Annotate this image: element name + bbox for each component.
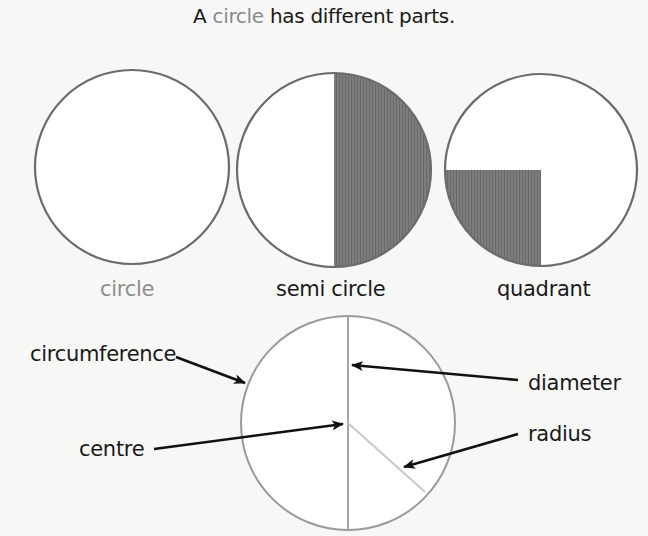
shape-quadrant	[445, 74, 637, 266]
label-circumference: circumference	[30, 342, 176, 366]
label-centre: centre	[79, 437, 144, 461]
label-semi-circle: semi circle	[276, 277, 385, 301]
quadrant-shaded-quarter	[445, 170, 541, 266]
label-diameter: diameter	[528, 371, 621, 395]
semi-circle-shaded-half	[334, 73, 431, 267]
label-quadrant: quadrant	[497, 277, 590, 301]
parts-circle	[241, 316, 455, 530]
shape-semi-circle	[237, 73, 431, 267]
label-radius: radius	[528, 422, 591, 446]
shape-circle	[35, 70, 229, 264]
label-circle: circle	[100, 277, 154, 301]
arrow-circumference	[176, 357, 245, 383]
